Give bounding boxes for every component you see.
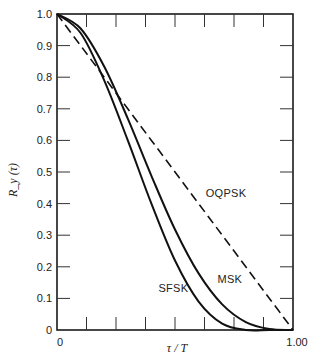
y-tick-label: 0.1: [37, 292, 52, 304]
labels: OQPSKMSKSFSKτ / TR_y (τ): [6, 163, 247, 355]
y-tick-label: 0.3: [37, 229, 52, 241]
curve-label-msk: MSK: [217, 273, 242, 285]
curve-label-oqpsk: OQPSK: [206, 187, 247, 199]
y-tick-label: 0.4: [37, 198, 52, 210]
y-tick-label: 0.2: [37, 261, 52, 273]
y-tick-label: 0.6: [37, 134, 52, 146]
y-tick-label: 0: [46, 324, 52, 336]
y-tick-label: 0.8: [37, 71, 52, 83]
x-axis-title: τ / T: [167, 341, 189, 355]
y-tick-label: 1.0: [37, 8, 52, 20]
x-tick-label: 0: [57, 336, 63, 348]
y-tick-label: 0.7: [37, 103, 52, 115]
curve-label-sfsk: SFSK: [158, 282, 188, 294]
axis-ticks: 00.10.20.30.40.50.60.70.80.91.001.00: [37, 8, 308, 348]
y-tick-label: 0.9: [37, 40, 52, 52]
autocorrelation-chart: 00.10.20.30.40.50.60.70.80.91.001.00 OQP…: [0, 0, 313, 363]
y-tick-label: 0.5: [37, 166, 52, 178]
y-axis-title: R_y (τ): [6, 163, 20, 198]
x-tick-label: 1.00: [286, 336, 307, 348]
